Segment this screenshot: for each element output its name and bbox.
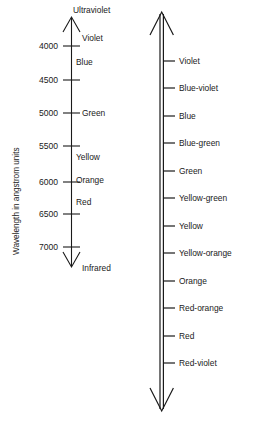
hue-label-yellow: Yellow [179,222,203,230]
hue-label-blue-green: Blue-green [179,139,220,147]
spectrum-label-infrared: Infrared [82,264,111,272]
spectrum-band-red: Red [76,198,91,206]
tick-label-5500: 5500 [8,142,58,151]
hue-label-blue: Blue [179,112,196,120]
tick-label-5000: 5000 [8,109,58,118]
hue-label-red-violet: Red-violet [179,359,217,367]
hue-label-red: Red [179,332,194,340]
hue-axis-down-arrowhead [150,388,173,411]
tick-label-4000: 4000 [8,42,58,51]
hue-axis-ticks [163,61,175,363]
spectrum-band-violet: Violet [82,34,103,42]
tick-label-6000: 6000 [8,178,58,187]
wavelength-axis-group [63,17,80,267]
spectrum-band-yellow: Yellow [76,153,100,161]
hue-label-red-orange: Red-orange [179,304,223,312]
hue-axis-up-arrowhead [150,12,173,35]
tick-label-4500: 4500 [8,76,58,85]
hue-label-blue-violet: Blue-violet [179,84,218,92]
hue-label-violet: Violet [179,57,200,65]
wavelength-axis-title: Wavelength in angstrom units [13,147,21,255]
hue-label-yellow-orange: Yellow-orange [179,249,232,257]
tick-label-6500: 6500 [8,210,58,219]
spectrum-band-blue: Blue [76,58,93,66]
hue-label-green: Green [179,167,202,175]
hue-label-orange: Orange [179,277,207,285]
spectrum-band-green: Green [82,109,105,117]
tick-label-7000: 7000 [8,243,58,252]
spectrum-label-ultraviolet: Ultraviolet [73,6,110,14]
spectrum-band-orange: Orange [76,176,104,184]
spectrum-diagram: Wavelength in angstrom units 4000 4500 5… [0,0,253,425]
hue-label-yellow-green: Yellow-green [179,194,227,202]
hue-axis-group [150,12,175,411]
